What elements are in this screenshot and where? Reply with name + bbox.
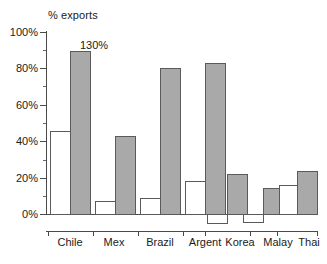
- x-axis-label-thai: Thai: [298, 236, 319, 248]
- bar-argent-filled: [205, 63, 226, 215]
- y-axis-label-20: 20%: [16, 172, 38, 184]
- x-axis-label-malay: Malay: [263, 236, 292, 248]
- x-axis-label-chile: Chile: [57, 236, 82, 248]
- y-axis-label-60: 60%: [16, 99, 38, 111]
- bar-mex-open: [95, 201, 116, 215]
- bar-korea-open: [207, 214, 228, 224]
- x-axis-label-korea: Korea: [225, 236, 254, 248]
- x-tick-1: [93, 231, 94, 236]
- x-axis-label-mex: Mex: [104, 236, 125, 248]
- y-axis-title: % exports: [48, 9, 98, 21]
- bar-chile-filled: [70, 51, 91, 215]
- exports-bar-chart: % exports 100% 80% 60% 40% 20% 0% 130%: [0, 0, 327, 264]
- bar-brazil-filled: [160, 68, 181, 215]
- y-axis-label-40: 40%: [16, 135, 38, 147]
- x-axis-label-argent: Argent: [189, 236, 221, 248]
- bar-korea-filled: [227, 174, 248, 215]
- y-axis-label-0: 0%: [22, 208, 38, 220]
- bar-brazil-open: [140, 198, 161, 215]
- bar-chile-open: [50, 131, 71, 215]
- annotation-chile-130: 130%: [80, 39, 108, 51]
- bar-mex-filled: [115, 136, 136, 215]
- x-tick-0: [48, 231, 49, 236]
- x-tick-3: [183, 231, 184, 236]
- bar-thai-filled: [297, 171, 318, 215]
- x-tick-2: [138, 231, 139, 236]
- bar-malay-open: [243, 214, 264, 223]
- x-axis-label-brazil: Brazil: [146, 236, 174, 248]
- y-axis-label-100: 100%: [10, 26, 38, 38]
- y-axis-spine: [46, 31, 47, 215]
- bar-argent-open: [185, 181, 206, 215]
- y-axis-label-80: 80%: [16, 62, 38, 74]
